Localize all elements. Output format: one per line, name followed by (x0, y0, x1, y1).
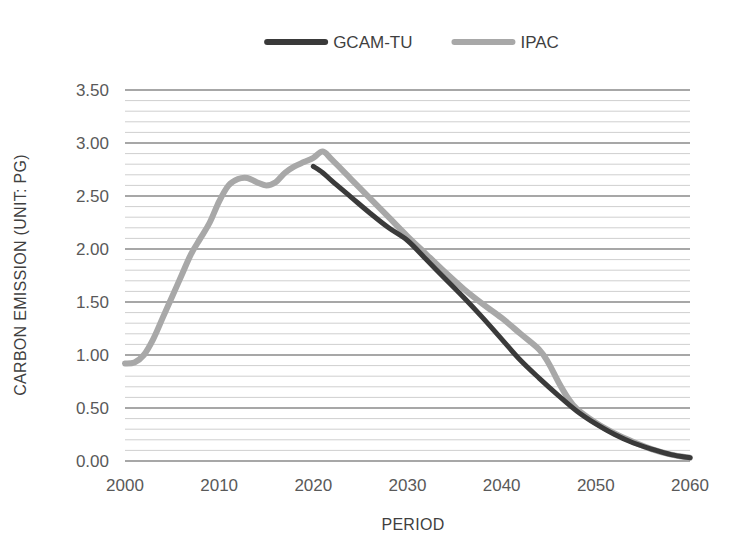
y-tick-label: 0.00 (76, 452, 109, 471)
x-tick-label: 2010 (200, 476, 238, 495)
legend-label: IPAC (520, 33, 558, 52)
x-tick-label: 2030 (389, 476, 427, 495)
line-chart: 0.000.501.001.502.002.503.003.50 2000201… (0, 0, 753, 554)
y-tick-label: 3.50 (76, 81, 109, 100)
chart-container: 0.000.501.001.502.002.503.003.50 2000201… (0, 0, 753, 554)
y-tick-label: 1.00 (76, 346, 109, 365)
y-tick-label: 3.00 (76, 134, 109, 153)
x-axis-title: PERIOD (381, 516, 444, 533)
x-tick-label: 2020 (294, 476, 332, 495)
y-tick-label: 2.00 (76, 240, 109, 259)
x-tick-label: 2040 (483, 476, 521, 495)
x-tick-label: 2000 (106, 476, 144, 495)
y-tick-label: 0.50 (76, 399, 109, 418)
legend-label: GCAM-TU (333, 33, 412, 52)
x-tick-label: 2060 (671, 476, 709, 495)
y-tick-label: 1.50 (76, 293, 109, 312)
chart-background (0, 0, 753, 554)
y-tick-label: 2.50 (76, 187, 109, 206)
x-tick-label: 2050 (577, 476, 615, 495)
y-axis-title: CARBON EMISSION (UNIT: PG) (12, 154, 29, 396)
